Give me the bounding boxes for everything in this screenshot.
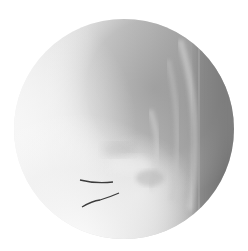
radiograph-image <box>0 0 248 251</box>
field-of-view <box>0 0 248 251</box>
radiograph-frame <box>0 0 248 251</box>
